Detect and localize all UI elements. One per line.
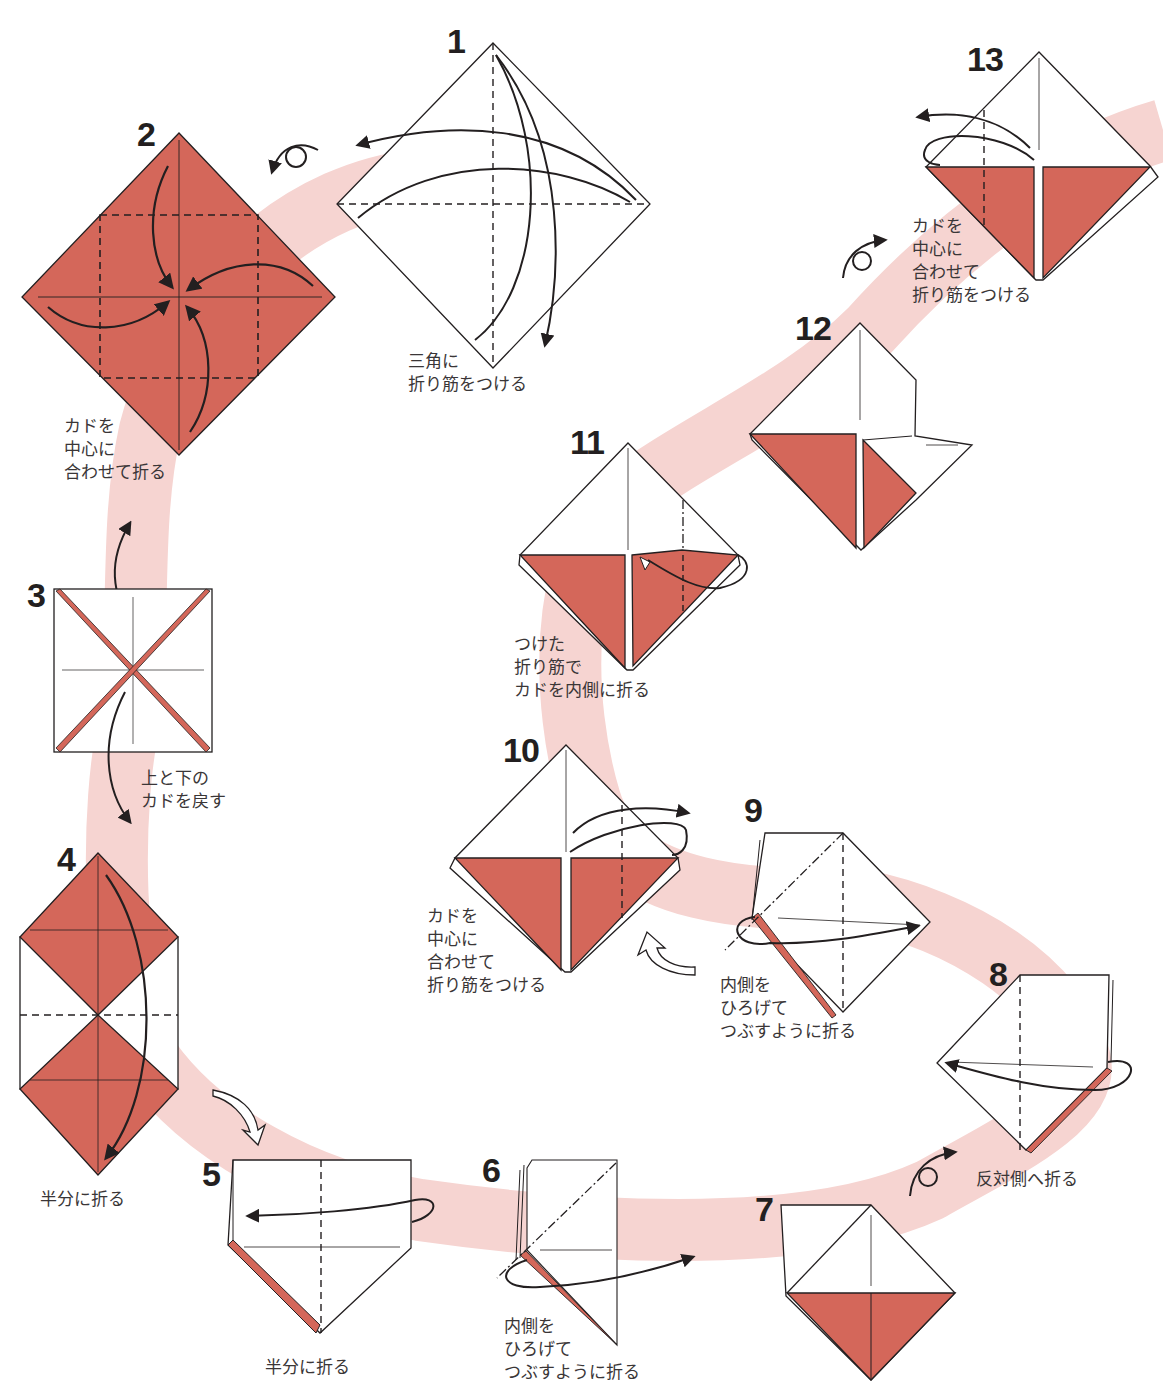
step-number-3: 3 [27,578,45,612]
step-1-caption: 三角に 折り筋をつける [408,350,527,396]
step-number-2: 2 [137,117,155,151]
step-13-caption: カドを 中心に 合わせて 折り筋をつける [912,215,1031,307]
step-3-caption: 上と下の カドを戻す [141,767,226,813]
step-number-10: 10 [503,733,539,767]
step-8-diagram [937,975,1131,1153]
origami-diagram: 1 2 3 4 5 6 7 8 9 10 11 12 13 三角に 折り筋をつけ… [0,0,1163,1391]
step-10-caption: カドを 中心に 合わせて 折り筋をつける [427,905,546,997]
step-5-caption: 半分に折る [265,1356,350,1379]
step-6-caption: 内側を ひろげて つぶすように折る [504,1315,640,1384]
step-11-caption: つけた 折り筋で カドを内側に折る [514,633,650,702]
step-2-diagram [22,133,335,455]
step-2-caption: カドを 中心に 合わせて折る [64,415,166,484]
next-step-hollow-arrow [638,932,695,975]
step-8-caption: 反対側へ折る [976,1168,1078,1191]
step-1-diagram [337,43,650,368]
step-number-11: 11 [570,425,604,459]
step-7-diagram [781,1205,955,1380]
step-number-1: 1 [447,24,465,58]
step-number-12: 12 [795,311,831,345]
step-12-diagram [750,323,972,550]
turn-over-icon [272,145,318,172]
step-4-caption: 半分に折る [40,1188,125,1211]
step-number-13: 13 [967,42,1003,76]
step-9-caption: 内側を ひろげて つぶすように折る [720,974,856,1043]
step-number-5: 5 [202,1157,220,1191]
turn-over-icon [843,240,885,278]
step-number-8: 8 [989,957,1007,991]
step-5-diagram [228,1160,433,1333]
step-number-7: 7 [755,1192,773,1226]
step-number-6: 6 [482,1153,500,1187]
step-number-9: 9 [744,793,762,827]
step-4-diagram [20,853,178,1175]
step-number-4: 4 [57,842,75,876]
